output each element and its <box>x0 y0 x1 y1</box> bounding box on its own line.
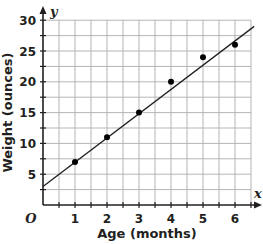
scatter-chart: 12345651015202530O yxAge (months)Weight … <box>0 0 263 244</box>
y-axis-title: Weight (ounces) <box>0 53 15 173</box>
data-point <box>200 54 206 60</box>
x-axis-arrow-icon <box>254 202 262 209</box>
axes <box>40 6 263 209</box>
y-tick-label: 20 <box>19 75 36 89</box>
y-tick-label: 15 <box>19 106 36 120</box>
x-tick-label: 2 <box>103 212 111 226</box>
y-tick-label: 5 <box>28 168 36 182</box>
y-tick-label: 30 <box>19 14 36 28</box>
x-tick-label: 3 <box>135 212 143 226</box>
y-axis-arrow-icon <box>40 6 47 14</box>
data-point <box>168 79 174 85</box>
data-point <box>104 134 110 140</box>
origin-label: O <box>25 211 37 226</box>
x-tick-label: 6 <box>231 212 239 226</box>
x-tick-label: 1 <box>71 212 79 226</box>
data-point <box>136 110 142 116</box>
tick-labels: 12345651015202530O <box>19 14 239 226</box>
grid-lines <box>43 20 251 205</box>
y-tick-label: 10 <box>19 137 36 151</box>
data-point <box>72 159 78 165</box>
x-tick-label: 5 <box>199 212 207 226</box>
y-tick-label: 25 <box>19 45 36 59</box>
data-point <box>232 42 238 48</box>
x-axis-variable: x <box>253 186 262 201</box>
x-axis-title: Age (months) <box>97 226 197 241</box>
y-axis-variable: y <box>49 4 59 19</box>
x-tick-label: 4 <box>167 212 175 226</box>
